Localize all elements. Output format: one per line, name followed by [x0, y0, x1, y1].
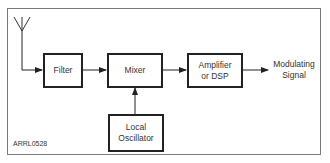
filter-block: Filter [43, 53, 83, 88]
local-oscillator-label-line2: Oscillator [118, 133, 153, 144]
mixer-block: Mixer [107, 53, 163, 88]
amplifier-block: Amplifier or DSP [187, 53, 243, 88]
amplifier-label-line1: Amplifier [198, 60, 231, 71]
output-label: Modulating Signal [266, 59, 322, 81]
mixer-label: Mixer [125, 65, 146, 76]
local-oscillator-block: Local Oscillator [108, 114, 164, 152]
local-oscillator-label-line1: Local [126, 122, 146, 133]
figure-id: ARRL0528 [13, 140, 47, 147]
antenna-icon [14, 17, 30, 31]
antenna-to-filter-arrow [22, 31, 42, 70]
amplifier-label-line2: or DSP [201, 71, 228, 82]
filter-label: Filter [54, 65, 73, 76]
output-label-line1: Modulating [266, 59, 322, 70]
output-label-line2: Signal [266, 70, 322, 81]
